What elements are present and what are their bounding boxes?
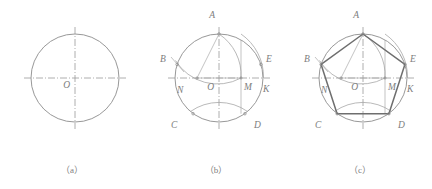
panel-c-completed-pentagon: A B E N O M K C D <box>288 0 432 160</box>
arc-chord-to-e <box>385 34 408 78</box>
label-m: M <box>243 82 253 92</box>
label-n: N <box>176 85 184 95</box>
label-e: E <box>409 54 416 64</box>
label-a: A <box>352 10 359 20</box>
tick-mark-b <box>171 57 184 72</box>
helper-line-n-a <box>341 34 363 78</box>
helper-line-n-a <box>197 34 219 78</box>
label-k: K <box>262 84 270 94</box>
arc-chord-to-e <box>241 34 264 78</box>
caption-c: （c） <box>288 163 432 176</box>
label-center-o: O <box>63 80 70 90</box>
label-a: A <box>208 10 215 20</box>
arc-n-to-m <box>219 34 241 78</box>
label-c: C <box>315 120 322 130</box>
label-b: B <box>160 54 166 64</box>
arc-n-upper-left <box>320 61 386 85</box>
pentagon-construction-figure: O A B E N O M K C D <box>0 0 432 189</box>
label-k: K <box>406 84 414 94</box>
label-n: N <box>320 85 328 95</box>
label-m: M <box>387 82 397 92</box>
caption-a: （a） <box>0 163 144 176</box>
label-o: O <box>351 82 358 92</box>
label-e: E <box>265 54 272 64</box>
arc-n-upper-left <box>176 61 242 85</box>
caption-b: （b） <box>144 163 288 176</box>
label-c: C <box>171 120 178 130</box>
label-b: B <box>304 54 310 64</box>
label-o: O <box>207 82 214 92</box>
label-d: D <box>253 120 261 130</box>
panel-b-arc-construction: A B E N O M K C D <box>144 0 288 160</box>
panel-a-given-circle: O <box>0 0 144 160</box>
label-d: D <box>397 120 405 130</box>
arc-n-to-m <box>363 34 385 78</box>
